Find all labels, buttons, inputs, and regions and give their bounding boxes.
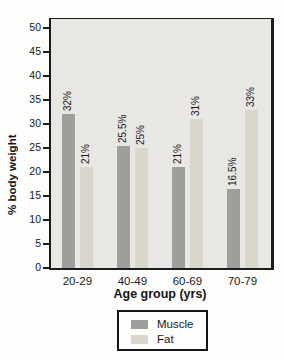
bar-fat-40-49 [135,148,148,268]
y-tick-mark [43,99,49,101]
x-category-label-20-29: 20-29 [49,275,105,287]
bar-chart-figure: % body weight 0510152025303540455032%21%… [0,0,284,360]
legend-entry-fat: Fat [131,333,206,345]
bar-value-label-muscle-20-29: 32% [62,91,74,111]
plot-area: 0510152025303540455032%21%20-2925.5%25%4… [49,18,274,270]
legend-entry-muscle: Muscle [131,318,206,330]
x-axis-title: Age group (yrs) [49,287,271,301]
bar-value-label-muscle-70-79: 16.5% [227,157,239,185]
bar-value-label-fat-40-49: 25% [135,125,147,145]
bar-muscle-60-69 [172,167,185,268]
y-tick-mark [43,147,49,149]
x-category-label-70-79: 70-79 [214,275,270,287]
y-tick-label: 25 [29,141,41,154]
legend: MuscleFat [117,310,208,351]
y-tick-label: 5 [35,237,41,250]
y-tick-mark [43,219,49,221]
bar-fat-70-79 [245,110,258,268]
bar-muscle-20-29 [62,114,75,268]
y-tick-label: 10 [29,213,41,226]
y-tick-mark [43,75,49,77]
y-tick-mark [43,195,49,197]
x-category-label-60-69: 60-69 [159,275,215,287]
bar-value-label-fat-70-79: 33% [245,87,257,107]
bar-muscle-40-49 [117,146,130,268]
y-tick-label: 20 [29,165,41,178]
legend-swatch-muscle [131,320,148,329]
y-tick-label: 15 [29,189,41,202]
bar-fat-60-69 [190,119,203,268]
y-tick-label: 30 [29,117,41,130]
bar-fat-20-29 [80,167,93,268]
y-tick-mark [43,243,49,245]
bar-value-label-muscle-60-69: 21% [172,144,184,164]
y-tick-mark [43,171,49,173]
y-tick-label: 45 [29,45,41,58]
y-tick-mark [43,27,49,29]
y-tick-mark [43,267,49,269]
legend-swatch-fat [131,335,148,344]
bar-value-label-fat-60-69: 31% [190,96,202,116]
bar-value-label-fat-20-29: 21% [80,144,92,164]
y-tick-mark [43,123,49,125]
bar-muscle-70-79 [227,189,240,268]
y-tick-label: 50 [29,21,41,34]
bar-value-label-muscle-40-49: 25.5% [117,114,129,142]
y-tick-label: 40 [29,69,41,82]
x-category-label-40-49: 40-49 [104,275,160,287]
y-tick-label: 35 [29,93,41,106]
legend-label-muscle: Muscle [157,318,193,330]
y-tick-mark [43,51,49,53]
y-tick-label: 0 [35,261,41,274]
y-axis-title: % body weight [6,75,18,215]
legend-label-fat: Fat [157,333,174,345]
